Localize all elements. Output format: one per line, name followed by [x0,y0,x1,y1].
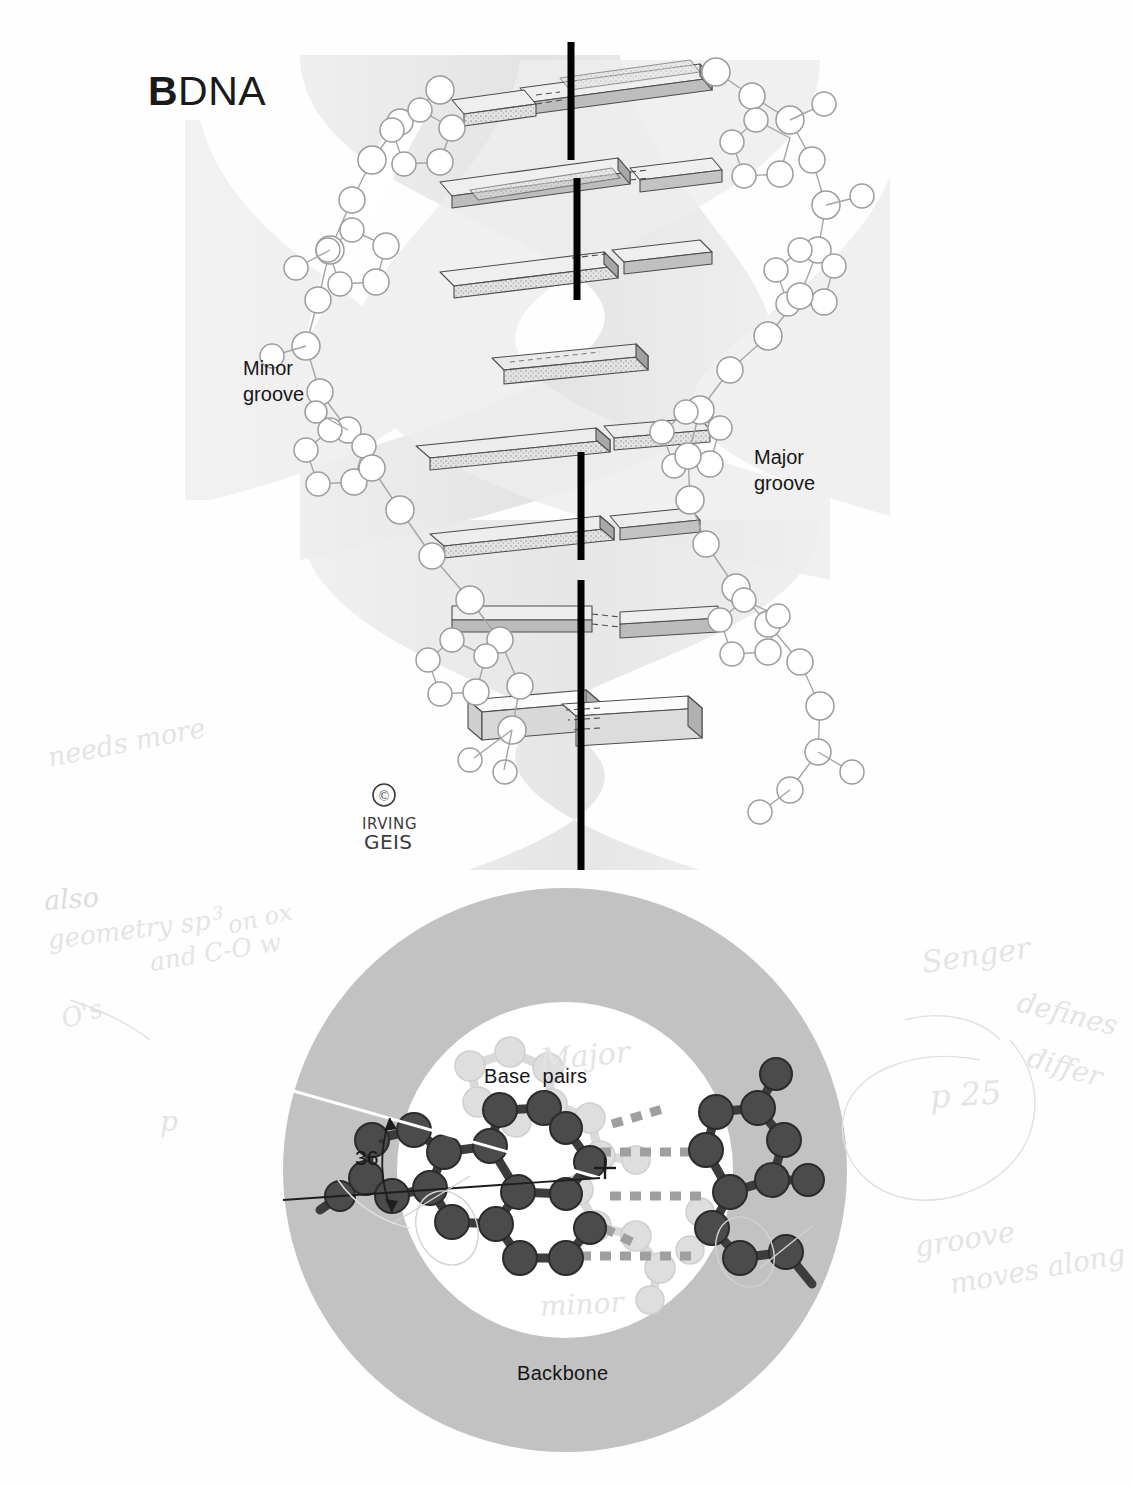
pencil-ink-layer [0,0,1132,1486]
figure-page: BDNA [0,0,1132,1486]
